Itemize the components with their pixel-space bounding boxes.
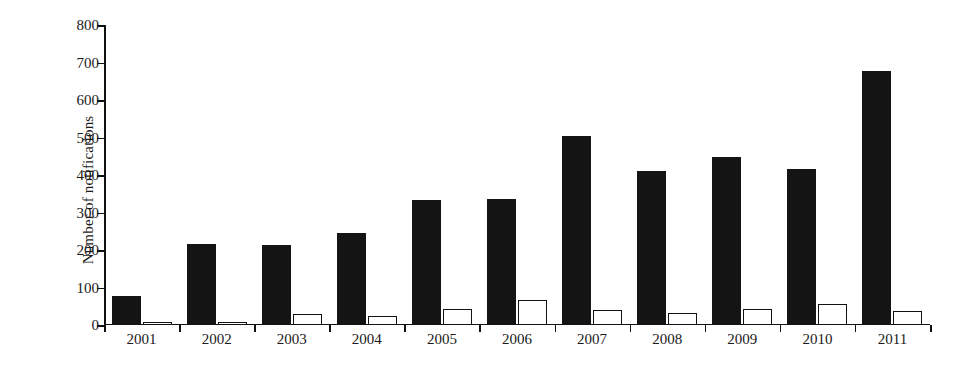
y-tick-label: 700 bbox=[77, 54, 100, 71]
y-tick-label: 100 bbox=[77, 279, 100, 296]
y-tick-label: 0 bbox=[92, 317, 100, 334]
bar-dark bbox=[262, 245, 291, 325]
x-tick-label: 2007 bbox=[555, 331, 630, 348]
bar-chart: Number of notifications 0100200300400500… bbox=[0, 0, 964, 380]
x-tick-label: 2010 bbox=[780, 331, 855, 348]
bar-group: 2001 bbox=[104, 25, 179, 325]
bar-light bbox=[443, 309, 472, 325]
bar-light bbox=[818, 304, 847, 325]
bar-dark bbox=[787, 169, 816, 325]
bar-group: 2005 bbox=[404, 25, 479, 325]
bar-light bbox=[743, 309, 772, 326]
bar-light bbox=[593, 310, 622, 325]
bar-light bbox=[293, 314, 322, 325]
x-tick-label: 2008 bbox=[630, 331, 705, 348]
bar-dark bbox=[712, 157, 741, 325]
bar-dark bbox=[337, 233, 366, 325]
x-tick-label: 2011 bbox=[855, 331, 930, 348]
bar-dark bbox=[187, 244, 216, 325]
x-tick-label: 2005 bbox=[404, 331, 479, 348]
x-tick-label: 2004 bbox=[329, 331, 404, 348]
bar-group: 2007 bbox=[555, 25, 630, 325]
bar-light bbox=[143, 322, 172, 325]
x-tick-label: 2006 bbox=[479, 331, 554, 348]
bar-light bbox=[518, 300, 547, 326]
plot-area: 0100200300400500600700800 20012002200320… bbox=[104, 25, 930, 325]
bar-groups: 2001200220032004200520062007200820092010… bbox=[104, 25, 930, 325]
bar-light bbox=[368, 316, 397, 325]
x-tick-mark bbox=[930, 325, 932, 332]
bar-group: 2006 bbox=[479, 25, 554, 325]
bar-dark bbox=[112, 296, 141, 325]
y-tick-label: 500 bbox=[77, 129, 100, 146]
x-tick-label: 2002 bbox=[179, 331, 254, 348]
bar-dark bbox=[637, 171, 666, 325]
bar-group: 2009 bbox=[705, 25, 780, 325]
x-tick-label: 2003 bbox=[254, 331, 329, 348]
x-tick-label: 2001 bbox=[104, 331, 179, 348]
bar-dark bbox=[862, 71, 891, 325]
bar-group: 2010 bbox=[780, 25, 855, 325]
y-tick-label: 200 bbox=[77, 242, 100, 259]
x-tick-label: 2009 bbox=[705, 331, 780, 348]
bar-dark bbox=[562, 136, 591, 325]
bar-light bbox=[668, 313, 697, 325]
bar-dark bbox=[487, 199, 516, 325]
y-tick-label: 600 bbox=[77, 92, 100, 109]
bar-group: 2008 bbox=[630, 25, 705, 325]
bar-group: 2003 bbox=[254, 25, 329, 325]
bar-dark bbox=[412, 200, 441, 325]
bar-group: 2011 bbox=[855, 25, 930, 325]
bar-group: 2004 bbox=[329, 25, 404, 325]
bar-light bbox=[893, 311, 922, 325]
y-tick-label: 300 bbox=[77, 204, 100, 221]
bar-light bbox=[218, 322, 247, 325]
y-tick-label: 800 bbox=[77, 17, 100, 34]
y-tick-label: 400 bbox=[77, 167, 100, 184]
bar-group: 2002 bbox=[179, 25, 254, 325]
